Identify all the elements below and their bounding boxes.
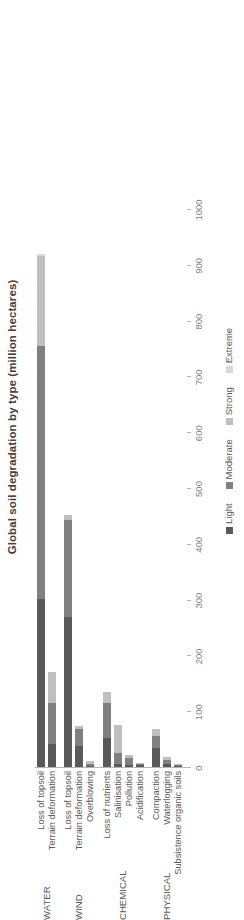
category-label: Acidification bbox=[136, 767, 144, 820]
axis-tick-label: 900 bbox=[193, 258, 204, 274]
category-label: Subsistence organic soils bbox=[174, 767, 182, 875]
axis-tick bbox=[187, 711, 191, 712]
axis-tick-label: 400 bbox=[193, 537, 204, 553]
axis-tick-label: 300 bbox=[193, 593, 204, 609]
bar-row: Waterlogging bbox=[163, 757, 171, 767]
bar-segment-light bbox=[48, 744, 56, 767]
category-label: Salinisation bbox=[114, 767, 122, 818]
bar-segment-strong bbox=[37, 256, 45, 346]
chart-title: Global soil degradation by type (million… bbox=[6, 0, 18, 834]
axis-tick-label: 800 bbox=[193, 314, 204, 330]
bar-segment-strong bbox=[75, 726, 83, 729]
legend-item-moderate[interactable]: Moderate bbox=[223, 439, 234, 489]
bar-row: Compaction bbox=[152, 729, 160, 767]
bar-segment-extreme bbox=[37, 254, 45, 256]
category-label: Pollution bbox=[125, 767, 133, 806]
category-label: Compaction bbox=[152, 767, 160, 820]
category-label: Loss of topsoil bbox=[37, 767, 45, 830]
bar-segment-strong bbox=[163, 757, 171, 760]
bar-segment-moderate bbox=[136, 764, 144, 765]
legend-label: Moderate bbox=[223, 439, 234, 479]
category-label: Loss of topsoil bbox=[64, 767, 72, 830]
bar-segment-strong bbox=[152, 729, 160, 736]
legend-swatch bbox=[226, 482, 233, 489]
bar-segment-strong bbox=[125, 755, 133, 757]
axis-tick-label: 200 bbox=[193, 648, 204, 664]
axis-tick bbox=[187, 544, 191, 545]
axis-tick bbox=[187, 321, 191, 322]
axis-tick bbox=[187, 209, 191, 210]
axis-tick bbox=[187, 600, 191, 601]
bar-segment-strong bbox=[103, 692, 111, 703]
legend-label: Strong bbox=[223, 387, 234, 415]
axis-tick bbox=[187, 265, 191, 266]
bar-segment-light bbox=[64, 617, 72, 767]
category-label: Terrain deformation bbox=[75, 767, 83, 850]
category-label: Waterlogging bbox=[163, 767, 171, 825]
bar-segment-moderate bbox=[64, 520, 72, 617]
bar-segment-moderate bbox=[75, 729, 83, 746]
axis-tick bbox=[187, 376, 191, 377]
legend-swatch bbox=[226, 527, 233, 534]
legend-item-light[interactable]: Light bbox=[223, 503, 234, 534]
axis-tick-label: 0 bbox=[193, 765, 204, 770]
axis-tick bbox=[187, 488, 191, 489]
bar-segment-light bbox=[103, 738, 111, 767]
bar-segment-strong bbox=[64, 515, 72, 520]
bar-row: Terrain deformation bbox=[75, 726, 83, 767]
bar-segment-moderate bbox=[48, 703, 56, 743]
legend-swatch bbox=[226, 366, 233, 373]
axis-tick-label: 600 bbox=[193, 425, 204, 441]
bar-segment-moderate bbox=[37, 346, 45, 599]
axis-tick bbox=[187, 767, 191, 768]
legend-label: Extreme bbox=[223, 328, 234, 363]
bar-segment-moderate bbox=[163, 760, 171, 763]
bar-segment-moderate bbox=[174, 765, 182, 766]
chart-legend: LightModerateStrongExtreme bbox=[218, 314, 232, 534]
bar-segment-moderate bbox=[114, 753, 122, 764]
plot-area: 01002003004005006007008009001000 Loss of… bbox=[35, 210, 187, 768]
bar-row: Loss of topsoil bbox=[37, 254, 45, 767]
legend-item-extreme[interactable]: Extreme bbox=[223, 328, 234, 373]
legend-label: Light bbox=[223, 503, 234, 524]
bar-segment-strong bbox=[86, 761, 94, 763]
category-label: Terrain deformation bbox=[48, 767, 56, 850]
bar-row: Acidification bbox=[136, 764, 144, 767]
bar-segment-moderate bbox=[152, 736, 160, 748]
bar-segment-strong bbox=[48, 672, 56, 703]
axis-tick-label: 100 bbox=[193, 704, 204, 720]
bar-row: Salinisation bbox=[114, 725, 122, 767]
group-label: CHEMICAL bbox=[119, 870, 127, 920]
bar-segment-light bbox=[37, 599, 45, 767]
bar-row: Pollution bbox=[125, 755, 133, 767]
legend-swatch bbox=[226, 418, 233, 425]
group-label: WATER bbox=[43, 886, 51, 920]
group-label: WIND bbox=[75, 894, 83, 920]
axis-tick-label: 1000 bbox=[193, 199, 204, 220]
bar-segment-light bbox=[152, 748, 160, 767]
bar-segment-strong bbox=[114, 725, 122, 753]
bar-segment-light bbox=[75, 746, 83, 767]
bar-row: Subsistence organic soils bbox=[174, 764, 182, 767]
bar-row: Loss of nutrients bbox=[103, 692, 111, 767]
axis-tick-label: 700 bbox=[193, 369, 204, 385]
bar-row: Terrain deformation bbox=[48, 672, 56, 767]
axis-tick bbox=[187, 432, 191, 433]
bar-segment-strong bbox=[136, 764, 144, 765]
group-label: PHYSICAL bbox=[163, 873, 171, 920]
legend-item-strong[interactable]: Strong bbox=[223, 387, 234, 425]
category-label: Loss of nutrients bbox=[103, 767, 111, 838]
axis-tick bbox=[187, 655, 191, 656]
bar-segment-moderate bbox=[103, 703, 111, 738]
bar-segment-strong bbox=[174, 764, 182, 765]
category-label: Overblowing bbox=[86, 767, 94, 822]
axis-tick-label: 500 bbox=[193, 481, 204, 497]
bar-row: Overblowing bbox=[86, 761, 94, 767]
bar-row: Loss of topsoil bbox=[64, 515, 72, 767]
bar-segment-moderate bbox=[125, 758, 133, 765]
